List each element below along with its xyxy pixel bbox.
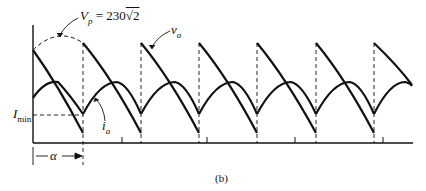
vp-envelope: [33, 36, 83, 50]
va-arrowhead: [149, 45, 155, 49]
alpha-label: α: [50, 148, 57, 164]
va-arrow: [152, 31, 170, 47]
axis-ticks: [122, 137, 383, 143]
ia-label: ia: [102, 118, 110, 136]
va-label: va: [171, 22, 181, 40]
vp-label: Vp = 230√2: [80, 8, 139, 26]
waveform-diagram: [0, 0, 426, 191]
vp-arrow: [60, 18, 78, 35]
figure-caption: (b): [215, 172, 228, 184]
va-waveform: [33, 43, 412, 133]
imin-label: Imin: [13, 106, 31, 124]
alpha-dimension: [33, 147, 82, 165]
